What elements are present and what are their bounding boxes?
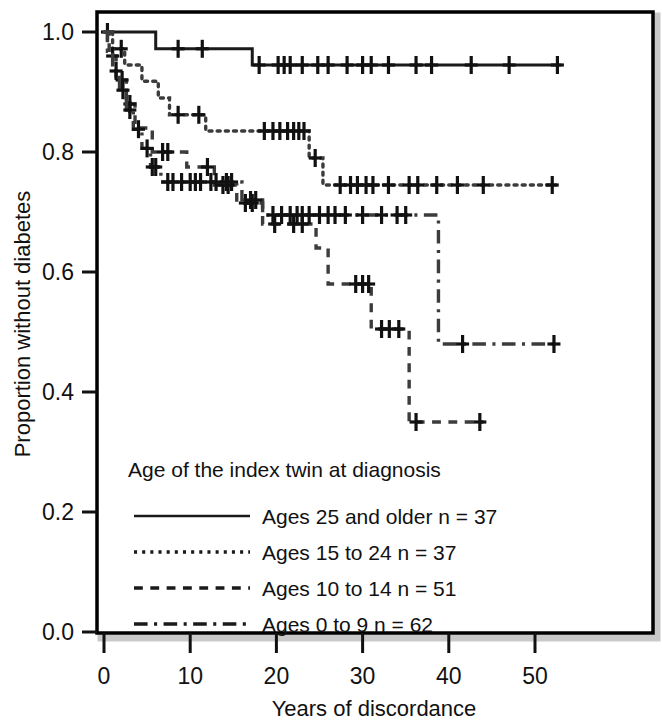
legend-label: Ages 10 to 14 n = 51 [262, 577, 456, 600]
y-tick-label: 0.0 [42, 619, 74, 645]
legend-label: Ages 0 to 9 n = 62 [262, 613, 433, 636]
figure-container: 0.00.20.40.60.81.0 01020304050 Proportio… [0, 0, 662, 724]
legend-title: Age of the index twin at diagnosis [128, 458, 441, 481]
y-tick-label: 0.6 [42, 259, 74, 285]
x-tick-label: 30 [350, 663, 376, 689]
survival-chart: 0.00.20.40.60.81.0 01020304050 Proportio… [0, 0, 662, 724]
legend-label: Ages 15 to 24 n = 37 [262, 541, 456, 564]
x-axis-title: Years of discordance [272, 696, 477, 721]
x-tick-label: 20 [264, 663, 290, 689]
y-tick-label: 0.2 [42, 499, 74, 525]
y-tick-label: 0.4 [42, 379, 74, 405]
plot-frame [97, 12, 653, 633]
legend-label: Ages 25 and older n = 37 [262, 505, 497, 528]
x-tick-label: 10 [177, 663, 203, 689]
x-tick-label: 0 [98, 663, 111, 689]
y-tick-label: 1.0 [42, 19, 74, 45]
x-tick-label: 50 [522, 663, 548, 689]
y-tick-label: 0.8 [42, 139, 74, 165]
x-tick-label: 40 [436, 663, 462, 689]
y-axis-title: Proportion without diabetes [10, 191, 35, 458]
